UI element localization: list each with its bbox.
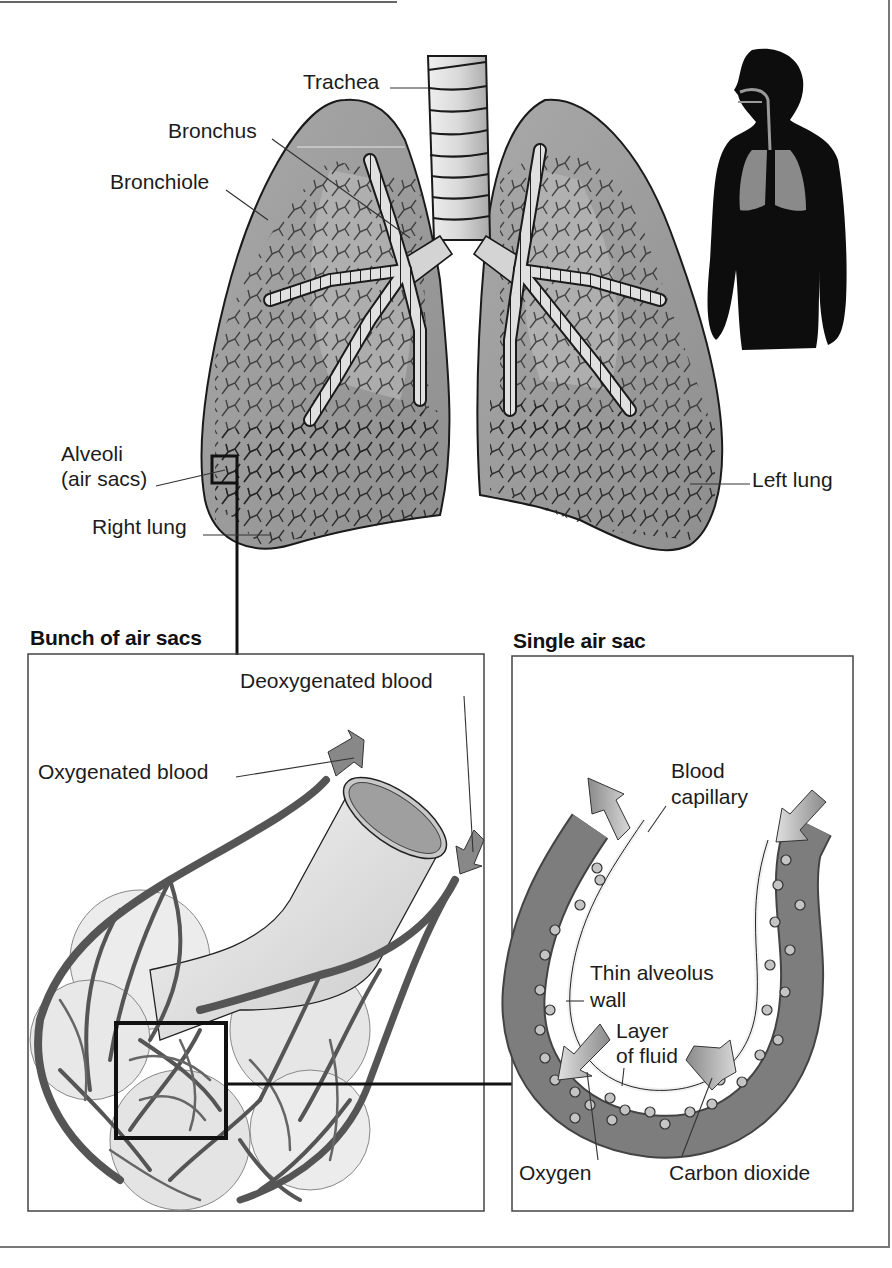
label-deoxygenated-blood: Deoxygenated blood bbox=[240, 669, 433, 693]
label-trachea: Trachea bbox=[303, 70, 379, 94]
label-left-lung: Left lung bbox=[752, 468, 833, 492]
air-sac-u-shape bbox=[523, 778, 826, 1137]
label-right-lung: Right lung bbox=[92, 515, 187, 539]
label-bronchiole: Bronchiole bbox=[110, 170, 209, 194]
label-alveoli-2: (air sacs) bbox=[61, 467, 147, 491]
label-thin-alveolus-2: wall bbox=[590, 988, 626, 1012]
oxygenated-arrow bbox=[328, 730, 364, 776]
label-oxygen: Oxygen bbox=[519, 1161, 591, 1185]
bunch-panel-heading: Bunch of air sacs bbox=[30, 626, 202, 650]
co2-arrow bbox=[686, 1040, 736, 1090]
label-carbon-dioxide: Carbon dioxide bbox=[669, 1161, 810, 1185]
human-silhouette bbox=[708, 49, 847, 350]
label-layer-fluid-2: of fluid bbox=[616, 1044, 678, 1068]
label-oxygenated-blood: Oxygenated blood bbox=[38, 760, 208, 784]
label-blood-capillary-1: Blood bbox=[671, 759, 725, 783]
single-panel-heading: Single air sac bbox=[513, 629, 646, 653]
label-thin-alveolus-1: Thin alveolus bbox=[590, 961, 714, 985]
label-bronchus: Bronchus bbox=[168, 119, 257, 143]
trachea-shape bbox=[428, 56, 490, 240]
label-layer-fluid-1: Layer bbox=[616, 1019, 669, 1043]
label-alveoli-1: Alveoli bbox=[61, 442, 123, 466]
label-blood-capillary-2: capillary bbox=[671, 785, 748, 809]
deoxygenated-arrow bbox=[456, 830, 484, 874]
